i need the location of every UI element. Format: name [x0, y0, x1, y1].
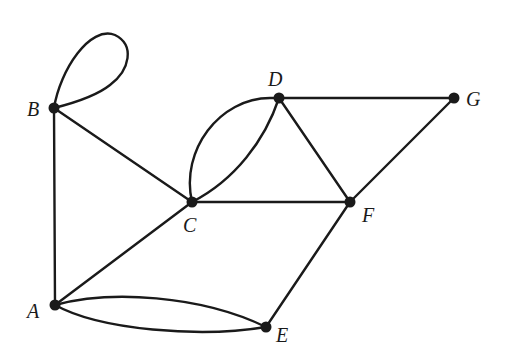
vertex-E — [261, 322, 272, 333]
graph-diagram: A B C D E F G — [0, 0, 506, 352]
edge-A-E-upper — [55, 297, 266, 327]
vertex-B — [49, 103, 60, 114]
edge-A-E-lower — [55, 305, 266, 332]
edge-B-B-loop — [54, 34, 128, 108]
label-F: F — [361, 204, 375, 226]
edge-C-D-inner — [192, 98, 279, 202]
vertex-A — [50, 300, 61, 311]
edge-B-A — [54, 108, 55, 305]
edge-B-C — [54, 108, 192, 202]
edge-A-C — [55, 202, 192, 305]
vertex-F — [345, 197, 356, 208]
edge-C-D-outer — [190, 98, 279, 202]
label-A: A — [25, 300, 40, 322]
label-C: C — [183, 214, 197, 236]
vertex-G — [449, 93, 460, 104]
vertex-labels: A B C D E F G — [25, 68, 481, 346]
label-D: D — [267, 68, 283, 90]
label-G: G — [466, 88, 481, 110]
edges — [54, 34, 454, 332]
label-B: B — [27, 98, 39, 120]
edge-F-G — [350, 98, 454, 202]
edge-E-F — [266, 202, 350, 327]
label-E: E — [275, 324, 288, 346]
edge-D-F — [279, 98, 350, 202]
vertex-D — [274, 93, 285, 104]
vertex-C — [187, 197, 198, 208]
